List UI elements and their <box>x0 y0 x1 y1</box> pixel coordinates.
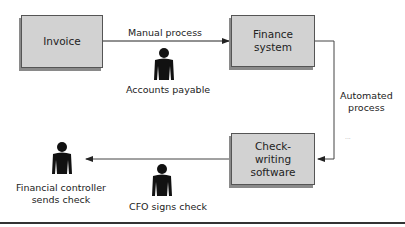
accounts-payable-label: Accounts payable <box>126 84 210 96</box>
person-icon <box>150 164 174 198</box>
bottom-rule <box>0 222 405 224</box>
finance-label-1: Finance <box>253 28 293 40</box>
invoice-label: Invoice <box>43 35 81 48</box>
finance-system-box: Financesystem <box>231 15 315 67</box>
person-icon <box>50 142 74 176</box>
check-label-2: writing <box>255 153 291 165</box>
check-label-3: software <box>250 166 295 178</box>
workflow-diagram: Invoice Financesystem Check-writingsoftw… <box>0 0 405 227</box>
person-icon <box>152 48 176 82</box>
finance-label-2: system <box>254 41 292 53</box>
check-label-1: Check- <box>255 140 291 152</box>
cfo-label: CFO signs check <box>129 201 207 213</box>
invoice-box: Invoice <box>21 15 103 68</box>
check-writing-box: Check-writingsoftware <box>231 133 315 185</box>
automated-process-label: Automatedprocess <box>340 90 393 114</box>
automated-arrow <box>315 41 334 159</box>
manual-process-label: Manual process <box>128 27 202 39</box>
artifact-mark: ... <box>345 133 351 140</box>
financial-controller-label: Financial controllersends check <box>16 182 106 206</box>
